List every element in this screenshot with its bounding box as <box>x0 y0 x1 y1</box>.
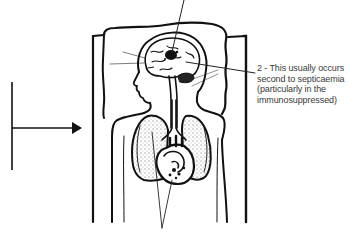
callout-2-text: 2 - This usually occurs second to septic… <box>257 63 349 105</box>
pointer-top <box>172 0 184 52</box>
left-arrow-pointer <box>12 82 82 170</box>
medical-illustration: 2 - This usually occurs second to septic… <box>0 0 349 242</box>
callout-2-line-4: immunosuppressed) <box>257 95 349 106</box>
callout-2-line-1: 2 - This usually occurs <box>257 63 349 74</box>
patient-drawing <box>0 0 349 242</box>
callout-2-line-3: (particularly in the <box>257 84 349 95</box>
ventricle-detail <box>148 67 154 68</box>
head-outline <box>112 33 225 140</box>
callout-2-line-2: second to septicaemia <box>257 74 349 85</box>
